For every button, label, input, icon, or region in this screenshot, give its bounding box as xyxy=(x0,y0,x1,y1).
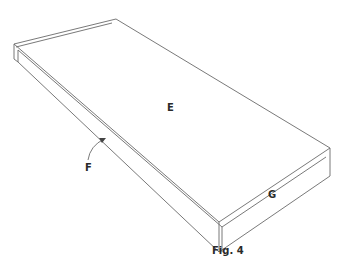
figure-caption: Fig. 4 xyxy=(212,246,244,256)
label-e: E xyxy=(167,103,174,113)
leader-arrow-f xyxy=(88,138,106,160)
label-f: F xyxy=(85,163,92,173)
end-face-g xyxy=(219,148,330,252)
side-edge-f xyxy=(14,44,222,252)
board-drawing xyxy=(0,0,346,275)
top-surface-e xyxy=(14,19,330,227)
label-g: G xyxy=(268,190,276,200)
